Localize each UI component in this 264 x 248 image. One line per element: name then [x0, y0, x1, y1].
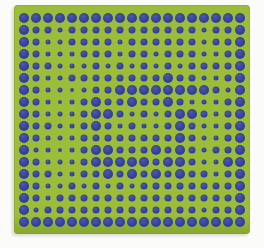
dot	[93, 135, 100, 142]
dot	[139, 13, 149, 23]
dot	[58, 172, 63, 177]
dot	[118, 124, 123, 129]
dot	[69, 207, 76, 214]
dot	[141, 183, 148, 190]
dot	[45, 27, 52, 34]
dot	[117, 99, 124, 106]
dot	[177, 51, 184, 58]
dot	[127, 169, 137, 179]
dot	[199, 85, 209, 95]
dot	[201, 171, 208, 178]
dot	[19, 97, 29, 107]
dot	[141, 99, 148, 106]
dot	[81, 147, 88, 154]
dot	[130, 112, 135, 117]
dot	[201, 111, 208, 118]
dot	[189, 147, 196, 154]
dot	[165, 63, 172, 70]
dot	[19, 157, 29, 167]
dot	[235, 217, 245, 227]
dot	[187, 13, 197, 23]
dot	[141, 195, 148, 202]
dot	[165, 195, 172, 202]
dot	[105, 75, 112, 82]
dot	[153, 27, 160, 34]
dot	[127, 85, 137, 95]
dot	[105, 51, 112, 58]
dot	[175, 85, 185, 95]
dot	[235, 145, 245, 155]
dot	[175, 121, 185, 131]
dot	[225, 171, 232, 178]
dot	[163, 13, 173, 23]
dot	[225, 135, 232, 142]
dot	[58, 100, 62, 104]
dot	[117, 183, 124, 190]
dot	[46, 88, 51, 93]
dot	[129, 195, 136, 202]
dot	[33, 171, 40, 178]
dot	[202, 28, 207, 33]
dot	[177, 207, 184, 214]
dot	[202, 40, 207, 45]
dot	[19, 217, 29, 227]
dot	[70, 88, 74, 92]
green-panel	[14, 5, 250, 234]
dot	[46, 112, 51, 117]
dot	[165, 183, 172, 190]
dot	[187, 109, 197, 119]
dot	[201, 183, 208, 190]
dot	[213, 27, 220, 34]
dot	[118, 52, 123, 57]
dot	[223, 13, 233, 23]
dot	[129, 51, 136, 58]
dot	[213, 39, 220, 46]
dot	[19, 145, 29, 155]
dot	[226, 88, 231, 93]
dot	[105, 207, 112, 214]
dot	[127, 217, 137, 227]
dot	[58, 136, 63, 141]
dot	[105, 123, 112, 130]
dot	[91, 157, 101, 167]
dot	[129, 75, 136, 82]
dot	[67, 217, 77, 227]
dot	[33, 99, 40, 106]
dot	[93, 63, 100, 70]
dot	[33, 75, 40, 82]
dot	[118, 40, 123, 45]
dot	[177, 75, 184, 82]
dot	[46, 76, 51, 81]
dot	[202, 76, 207, 81]
dot	[235, 121, 245, 131]
dot	[93, 195, 100, 202]
dot	[129, 135, 136, 142]
dot	[115, 13, 125, 23]
dot	[93, 183, 100, 190]
dot	[69, 75, 76, 82]
dot	[33, 135, 40, 142]
dot	[225, 99, 232, 106]
dot	[105, 135, 112, 142]
dot	[82, 184, 87, 189]
dot	[139, 217, 149, 227]
dot	[58, 28, 63, 33]
dot	[189, 159, 196, 166]
dot	[202, 124, 207, 129]
dot	[69, 27, 76, 34]
dot	[129, 123, 136, 130]
dot	[70, 124, 75, 129]
dot	[163, 217, 173, 227]
dot	[187, 217, 197, 227]
dot	[33, 183, 40, 190]
dot	[235, 49, 245, 59]
dot	[103, 157, 113, 167]
dot	[141, 39, 148, 46]
dot	[117, 171, 124, 178]
dot	[81, 51, 88, 58]
dot-grid	[14, 5, 250, 234]
dot	[189, 39, 196, 46]
dot	[91, 97, 101, 107]
dot	[141, 63, 148, 70]
dot	[199, 217, 209, 227]
